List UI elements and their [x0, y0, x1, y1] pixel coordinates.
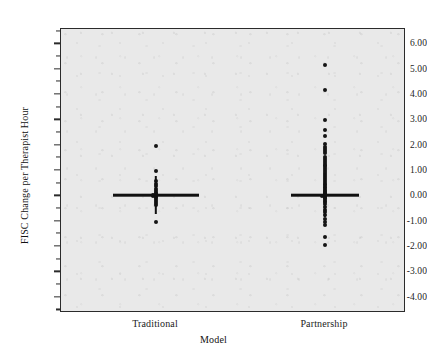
data-point [154, 220, 158, 224]
y-tick-mark [54, 169, 60, 170]
data-point [323, 63, 327, 67]
y-tick-mark [54, 245, 60, 246]
data-point [323, 223, 327, 227]
y-tick-mark [54, 296, 60, 297]
y-minor-tick-mark [56, 207, 60, 208]
y-tick-mark [54, 119, 60, 120]
paper-texture [61, 29, 404, 311]
y-tick-mark [54, 43, 60, 44]
y-minor-tick-mark [56, 182, 60, 183]
y-tick-mark [54, 93, 60, 94]
data-point [323, 134, 327, 138]
y-minor-tick-mark [56, 81, 60, 82]
y-tick-label: 3.00 [375, 114, 427, 124]
y-tick-label: 4.00 [375, 89, 427, 99]
y-tick-mark [54, 68, 60, 69]
y-tick-label: 1.00 [375, 165, 427, 175]
y-tick-mark [54, 144, 60, 145]
y-tick-label: -4.00 [375, 292, 427, 302]
dot-plot-figure: 6.005.004.003.002.001.000.00-1.00-2.00-3… [0, 0, 427, 353]
y-tick-label: 6.00 [375, 38, 427, 48]
y-minor-tick-mark [56, 106, 60, 107]
data-point [323, 88, 327, 92]
y-minor-tick-mark [56, 55, 60, 56]
y-tick-label: -3.00 [375, 266, 427, 276]
mean-marker-vertical [155, 176, 157, 214]
y-minor-tick-mark [56, 309, 60, 310]
x-axis-title: Model [0, 334, 427, 345]
y-tick-label: 0.00 [375, 190, 427, 200]
y-tick-mark [54, 195, 60, 196]
y-tick-label: 5.00 [375, 64, 427, 74]
y-tick-label: -1.00 [375, 216, 427, 226]
y-tick-mark [54, 220, 60, 221]
data-point [154, 169, 158, 173]
y-tick-label: 2.00 [375, 140, 427, 150]
data-point [323, 128, 327, 132]
y-minor-tick-mark [56, 30, 60, 31]
y-minor-tick-mark [56, 157, 60, 158]
y-minor-tick-mark [56, 233, 60, 234]
data-point [323, 235, 327, 239]
data-point [323, 243, 327, 247]
y-tick-mark [54, 271, 60, 272]
x-tick-label-partnership: Partnership [300, 318, 347, 329]
y-tick-label: -2.00 [375, 241, 427, 251]
y-minor-tick-mark [56, 284, 60, 285]
data-point [154, 144, 158, 148]
data-point [323, 118, 327, 122]
y-minor-tick-mark [56, 131, 60, 132]
x-tick-label-traditional: Traditional [132, 318, 178, 329]
y-axis-title: FISC Change per Therapist Hour [19, 56, 30, 296]
y-minor-tick-mark [56, 258, 60, 259]
mean-marker-vertical [324, 173, 326, 217]
plot-area [60, 28, 405, 312]
